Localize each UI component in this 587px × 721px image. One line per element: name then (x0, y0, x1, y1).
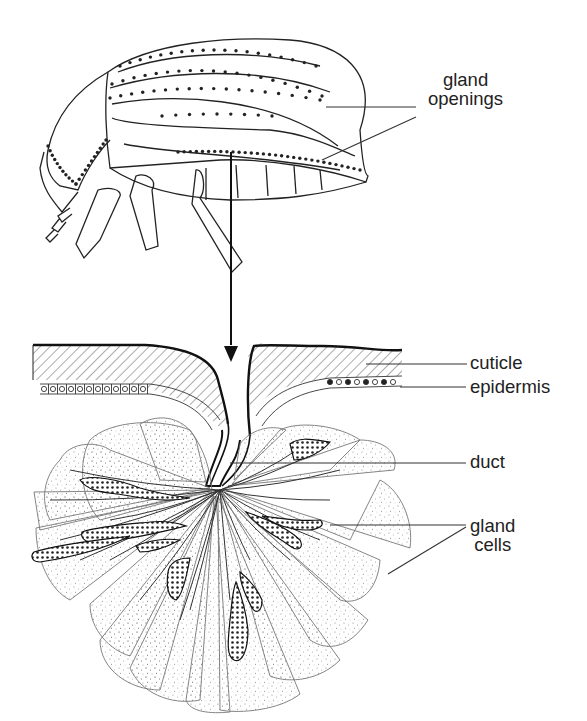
label-epidermis: epidermis (470, 377, 550, 396)
antenna (46, 208, 72, 242)
label-gland-openings-line2: openings (428, 89, 503, 108)
label-gland-openings-line1: gland (428, 70, 503, 89)
label-cuticle: cuticle (470, 353, 522, 372)
leg-front (76, 188, 120, 258)
leg-hind (192, 170, 242, 272)
label-gland-cells-line2: cells (470, 535, 515, 554)
label-gland-openings: gland openings (428, 70, 503, 108)
label-duct: duct (470, 452, 505, 471)
beetle-illustration (40, 39, 368, 272)
arrow-head-icon (224, 346, 238, 362)
elytron (106, 39, 368, 182)
label-gland-cells-line1: gland (470, 516, 515, 535)
gland-opening-dots (46, 48, 361, 185)
pronotum (47, 72, 110, 190)
leg-middle (130, 175, 158, 250)
label-gland-cells: gland cells (470, 516, 515, 554)
